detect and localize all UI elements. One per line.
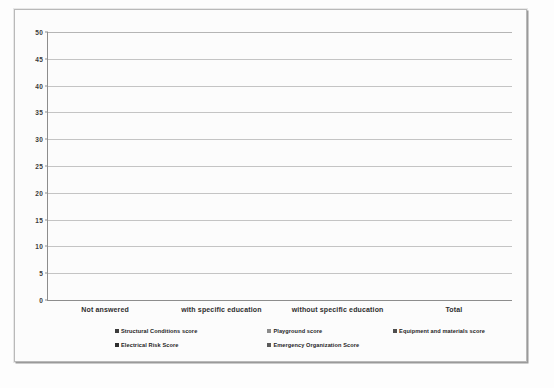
y-tick-label-30: 30 xyxy=(35,136,43,143)
scanned-page: 05101520253035404550 Not answeredwith sp… xyxy=(0,0,554,388)
bar-cluster xyxy=(299,32,378,300)
legend-item[interactable]: Electrical Risk Score xyxy=(115,342,267,348)
legend-item[interactable]: Structural Conditions score xyxy=(115,328,267,334)
x-axis-label-2: without specific education xyxy=(280,306,396,313)
y-tick-label-20: 20 xyxy=(35,189,43,196)
legend-swatch-icon xyxy=(267,343,271,347)
y-tick-label-40: 40 xyxy=(35,82,43,89)
legend-label: Structural Conditions score xyxy=(121,328,197,334)
chart-legend: Structural Conditions scorePlayground sc… xyxy=(115,328,496,356)
y-tick-label-50: 50 xyxy=(35,29,43,36)
chart-frame: 05101520253035404550 Not answeredwith sp… xyxy=(14,9,527,362)
legend-item[interactable]: Emergency Organization Score xyxy=(267,342,393,348)
y-tick-label-45: 45 xyxy=(35,55,43,62)
legend-label: Electrical Risk Score xyxy=(121,342,178,348)
legend-swatch-icon xyxy=(267,329,271,333)
bar-group xyxy=(280,32,396,300)
legend-item[interactable]: Equipment and materials score xyxy=(393,328,496,334)
y-tick-label-25: 25 xyxy=(35,163,43,170)
plot-area: 05101520253035404550 xyxy=(47,32,512,301)
legend-swatch-icon xyxy=(393,329,397,333)
y-tick-label-15: 15 xyxy=(35,216,43,223)
bar-group xyxy=(164,32,280,300)
x-axis-label-3: Total xyxy=(396,306,512,313)
y-tick-label-5: 5 xyxy=(39,270,43,277)
legend-label: Emergency Organization Score xyxy=(273,342,359,348)
y-tick-label-10: 10 xyxy=(35,243,43,250)
y-tick-label-35: 35 xyxy=(35,109,43,116)
bar-group xyxy=(48,32,164,300)
x-axis-label-1: with specific education xyxy=(163,306,279,313)
x-axis-label-0: Not answered xyxy=(47,306,163,313)
legend-row-1: Structural Conditions scorePlayground sc… xyxy=(115,328,496,334)
legend-label: Playground score xyxy=(273,328,322,334)
legend-item[interactable]: Playground score xyxy=(267,328,393,334)
legend-swatch-icon xyxy=(115,343,119,347)
bar-cluster xyxy=(183,32,262,300)
bar-group xyxy=(396,32,512,300)
legend-row-2: Electrical Risk ScoreEmergency Organizat… xyxy=(115,342,496,348)
bar-groups xyxy=(48,32,512,300)
bar-cluster xyxy=(415,32,494,300)
bar-chart: 05101520253035404550 Not answeredwith sp… xyxy=(15,10,526,361)
bar-cluster xyxy=(67,32,146,300)
x-axis-category-labels: Not answeredwith specific educationwitho… xyxy=(47,306,512,313)
y-tick-label-0: 0 xyxy=(39,297,43,304)
legend-swatch-icon xyxy=(115,329,119,333)
legend-label: Equipment and materials score xyxy=(399,328,485,334)
